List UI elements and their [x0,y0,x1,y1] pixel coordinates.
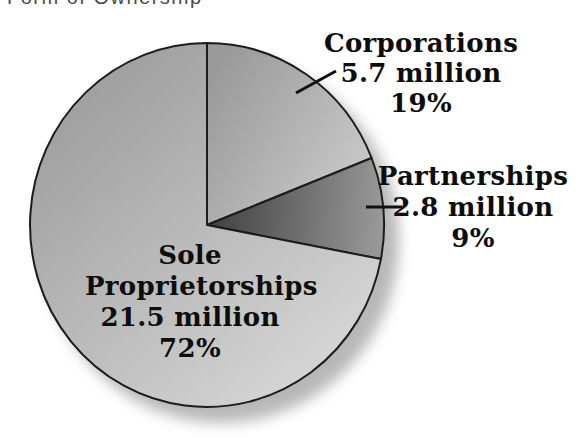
sole-value: 21.5 million [85,302,295,333]
partnerships-percent: 9% [370,223,576,254]
label-corporations: Corporations 5.7 million 19% [316,28,526,118]
corporations-name: Corporations [316,28,526,58]
partnerships-name: Partnerships [370,161,576,192]
partnerships-value: 2.8 million [370,192,576,223]
label-sole-proprietorships: Sole Proprietorships 21.5 million 72% [85,240,295,364]
sole-name-line1: Sole [85,240,295,271]
label-partnerships: Partnerships 2.8 million 9% [370,161,576,254]
sole-percent: 72% [85,333,295,364]
pie-chart-figure: Form of Ownership [0,0,585,438]
corporations-percent: 19% [316,88,526,118]
sole-name-line2: Proprietorships [85,271,295,302]
corporations-value: 5.7 million [316,58,526,88]
